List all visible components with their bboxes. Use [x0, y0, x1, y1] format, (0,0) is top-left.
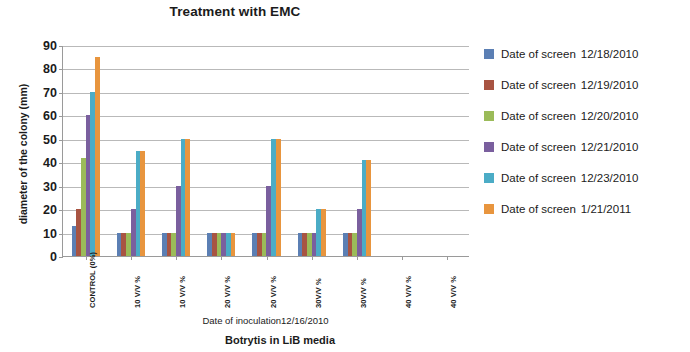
x-axis-category-label: 20 V/V %: [223, 246, 232, 308]
legend-series-date: 12/23/2010: [581, 172, 639, 184]
y-axis-tick-label: 70: [43, 86, 57, 100]
bar-group: [207, 46, 235, 256]
x-axis-tick-mark: [267, 256, 268, 260]
bar[interactable]: [95, 57, 100, 256]
legend-item[interactable]: Date of screen12/23/2010: [484, 162, 690, 193]
chart-caption: Botrytis in LiB media: [0, 334, 560, 346]
legend-series-name: Date of screen: [501, 48, 576, 60]
legend-item[interactable]: Date of screen12/18/2010: [484, 38, 690, 69]
legend-swatch-icon: [484, 49, 494, 59]
bar[interactable]: [140, 151, 145, 257]
bar-series-layer: [63, 46, 469, 256]
legend-swatch-icon: [484, 80, 494, 90]
x-axis-category-label: 40 V/V %: [404, 246, 413, 308]
legend-item[interactable]: Date of screen12/19/2010: [484, 69, 690, 100]
x-axis-category-label: 30V/V %: [359, 246, 368, 308]
x-axis-category-label: 30V/V %: [314, 246, 323, 308]
y-axis-tick-label: 40: [43, 156, 57, 170]
y-axis-title: diameter of the colony (mm): [17, 59, 29, 249]
legend-series-date: 12/21/2010: [581, 141, 639, 153]
y-axis-tick-label: 10: [43, 227, 57, 241]
legend-swatch-icon: [484, 142, 494, 152]
chart-container: Treatment with EMC diameter of the colon…: [0, 0, 690, 352]
x-axis-category-label: 40 V/V %: [449, 246, 458, 308]
x-axis-tick-mark: [402, 256, 403, 260]
bar[interactable]: [185, 139, 190, 256]
x-axis-tick-mark: [357, 256, 358, 260]
legend-swatch-icon: [484, 204, 494, 214]
bar-group: [117, 46, 145, 256]
legend-series-name: Date of screen: [501, 79, 576, 91]
bar-group: [343, 46, 371, 256]
bar-group: [162, 46, 190, 256]
chart-title: Treatment with EMC: [0, 4, 470, 19]
bar-group: [252, 46, 280, 256]
x-axis-tick-mark: [176, 256, 177, 260]
legend-swatch-icon: [484, 173, 494, 183]
legend-series-name: Date of screen: [501, 110, 576, 122]
x-axis-tick-mark: [312, 256, 313, 260]
legend-item[interactable]: Date of screen12/21/2010: [484, 131, 690, 162]
legend-series-name: Date of screen: [501, 203, 576, 215]
bar[interactable]: [366, 160, 371, 256]
x-axis-tick-mark: [131, 256, 132, 260]
legend-swatch-icon: [484, 111, 494, 121]
y-axis-tick-label: 60: [43, 109, 57, 123]
x-axis-title: Date of inoculation12/16/2010: [62, 315, 469, 326]
bar-group: [433, 46, 461, 256]
plot-area: 9080706050403020100: [62, 46, 469, 257]
bar-group: [298, 46, 326, 256]
legend-series-date: 12/19/2010: [581, 79, 639, 91]
x-axis-category-labels: CONTROL (0%)10 V/V %10 V/V %20 V/V %20 V…: [62, 262, 469, 310]
legend-series-name: Date of screen: [501, 141, 576, 153]
y-axis-tick-label: 20: [43, 203, 57, 217]
x-axis-category-label: 20 V/V %: [269, 246, 278, 308]
legend-series-date: 12/18/2010: [581, 48, 639, 60]
legend-series-name: Date of screen: [501, 172, 576, 184]
y-axis-tick-label: 80: [43, 62, 57, 76]
x-axis-tick-mark: [86, 256, 87, 260]
y-axis-tick-label: 90: [43, 39, 57, 53]
legend-series-date: 1/21/2011: [581, 203, 631, 215]
y-axis-tick-label: 0: [50, 250, 57, 264]
legend-series-date: 12/20/2010: [581, 110, 639, 122]
legend-item[interactable]: Date of screen1/21/2011: [484, 193, 690, 224]
x-axis-category-label: 10 V/V %: [133, 246, 142, 308]
bar[interactable]: [276, 139, 281, 256]
bar-group: [72, 46, 100, 256]
x-axis-category-label: 10 V/V %: [178, 246, 187, 308]
y-axis-tick-label: 50: [43, 133, 57, 147]
x-axis-category-label: CONTROL (0%): [88, 246, 97, 308]
chart-legend: Date of screen12/18/2010Date of screen12…: [484, 38, 690, 224]
y-axis-tick-mark: [59, 257, 63, 258]
legend-item[interactable]: Date of screen12/20/2010: [484, 100, 690, 131]
bar-group: [388, 46, 416, 256]
y-axis-tick-label: 30: [43, 180, 57, 194]
